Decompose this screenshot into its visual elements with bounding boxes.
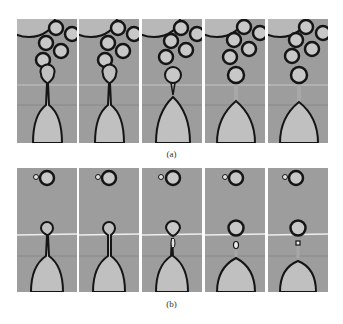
frame-a-5	[268, 19, 328, 143]
droplet-image	[79, 19, 139, 143]
caption-b: (b)	[0, 299, 343, 309]
frame-a-2	[79, 19, 139, 143]
frame-b-1	[17, 168, 77, 292]
frame-b-4	[205, 168, 265, 292]
droplet-image	[268, 168, 328, 292]
frame-b-3	[142, 168, 202, 292]
frame-b-2	[79, 168, 139, 292]
droplet-image	[268, 19, 328, 143]
droplet-image	[142, 168, 202, 292]
droplet-image	[205, 168, 265, 292]
frame-a-4	[205, 19, 265, 143]
droplet-image	[17, 168, 77, 292]
droplet-image	[205, 19, 265, 143]
frame-a-3	[142, 19, 202, 143]
droplet-image	[79, 168, 139, 292]
frame-a-1	[17, 19, 77, 143]
frame-b-5	[268, 168, 328, 292]
droplet-image	[17, 19, 77, 143]
caption-a: (a)	[0, 149, 343, 159]
droplet-image	[142, 19, 202, 143]
